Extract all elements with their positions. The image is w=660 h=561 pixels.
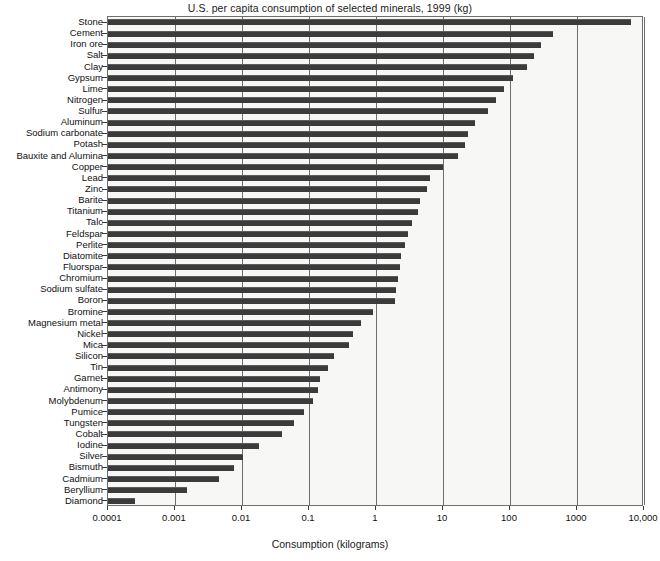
bar — [108, 298, 395, 304]
x-axis-tick-label: 1000 — [565, 512, 586, 523]
bar — [108, 253, 401, 259]
y-axis-label: Sulfur — [78, 106, 103, 116]
y-axis-label: Sodium carbonate — [26, 128, 103, 138]
y-axis-label: Titanium — [67, 206, 103, 216]
chart-title: U.S. per capita consumption of selected … — [0, 2, 660, 14]
y-axis-label: Iodine — [77, 440, 103, 450]
y-axis-label: Talc — [86, 217, 103, 227]
y-axis-label: Chromium — [59, 273, 103, 283]
y-axis-label: Garnet — [74, 373, 103, 383]
y-axis-label: Perlite — [76, 240, 103, 250]
x-axis-tick — [107, 506, 108, 510]
bar — [108, 398, 313, 404]
y-axis-label: Silicon — [75, 351, 103, 361]
bar — [108, 487, 187, 493]
bar — [108, 264, 400, 270]
x-axis-tick — [375, 506, 376, 510]
bar — [108, 443, 259, 449]
bar — [108, 231, 408, 237]
bar — [108, 153, 458, 159]
bar-series — [108, 17, 642, 505]
y-axis-label: Aluminum — [61, 117, 103, 127]
x-axis-tick — [509, 506, 510, 510]
y-axis-label: Bromine — [68, 307, 103, 317]
bar — [108, 476, 219, 482]
y-axis-label: Silver — [79, 451, 103, 461]
chart-page: U.S. per capita consumption of selected … — [0, 0, 660, 561]
plot-area — [107, 16, 643, 506]
bar — [108, 53, 534, 59]
bar — [108, 276, 398, 282]
bar — [108, 31, 553, 37]
x-axis-tick — [241, 506, 242, 510]
bar — [108, 376, 320, 382]
bar — [108, 309, 373, 315]
bar — [108, 19, 631, 25]
y-axis-label: Stone — [78, 17, 103, 27]
y-axis-label: Cement — [70, 28, 103, 38]
bar — [108, 387, 318, 393]
bar — [108, 120, 475, 126]
y-axis-label: Cobalt — [76, 429, 103, 439]
y-axis-label: Magnesium metal — [28, 318, 103, 328]
y-axis-label: Sodium sulfate — [40, 284, 103, 294]
y-axis-label: Iron ore — [70, 39, 103, 49]
x-axis-tick-label: 100 — [501, 512, 517, 523]
y-axis-label: Pumice — [71, 407, 103, 417]
bar — [108, 220, 412, 226]
y-axis-label: Lead — [82, 173, 103, 183]
bar — [108, 498, 135, 504]
bar — [108, 287, 396, 293]
bar — [108, 209, 418, 215]
y-axis-label: Mica — [83, 340, 103, 350]
y-axis-label: Salt — [87, 50, 103, 60]
x-axis-tick-label: 0.001 — [162, 512, 186, 523]
y-axis-label: Nitrogen — [67, 95, 103, 105]
bar — [108, 175, 430, 181]
bar — [108, 131, 468, 137]
y-axis-label: Antimony — [63, 384, 103, 394]
bar — [108, 465, 234, 471]
y-axis-label: Fluorspar — [63, 262, 103, 272]
x-axis-title: Consumption (kilograms) — [0, 538, 660, 550]
y-axis-label: Clay — [84, 62, 103, 72]
bar — [108, 242, 405, 248]
x-axis-tick-label: 10,000 — [628, 512, 657, 523]
x-axis-tick-label: 1 — [372, 512, 377, 523]
bar — [108, 42, 541, 48]
bar — [108, 409, 304, 415]
y-axis-label: Copper — [72, 162, 103, 172]
y-axis-label: Feldspar — [66, 229, 103, 239]
bar — [108, 331, 353, 337]
y-axis-label: Lime — [82, 84, 103, 94]
y-axis-label: Tungsten — [64, 418, 103, 428]
bar — [108, 420, 294, 426]
y-axis-label: Boron — [78, 295, 103, 305]
x-axis-tick — [576, 506, 577, 510]
y-axis-labels: StoneCementIron oreSaltClayGypsumLimeNit… — [0, 16, 103, 506]
y-axis-label: Gypsum — [68, 73, 103, 83]
bar — [108, 75, 513, 81]
y-axis-label: Potash — [73, 139, 103, 149]
bar — [108, 186, 427, 192]
bar — [108, 97, 496, 103]
bar — [108, 342, 349, 348]
bar — [108, 64, 527, 70]
x-axis-tick — [643, 506, 644, 510]
x-axis-labels: 0.00010.0010.010.1110100100010,000 — [0, 512, 660, 526]
x-axis-tick-label: 0.01 — [232, 512, 251, 523]
x-axis-tick-label: 0.1 — [301, 512, 314, 523]
y-axis-label: Bismuth — [69, 462, 103, 472]
y-axis-label: Barite — [78, 195, 103, 205]
bar — [108, 365, 328, 371]
bar — [108, 454, 243, 460]
bar — [108, 164, 443, 170]
bar — [108, 86, 504, 92]
x-axis-tick — [174, 506, 175, 510]
x-axis-tick — [442, 506, 443, 510]
y-axis-label: Beryllium — [64, 485, 103, 495]
x-axis-tick-label: 10 — [437, 512, 448, 523]
x-axis-tick — [308, 506, 309, 510]
y-axis-label: Diatomite — [63, 251, 103, 261]
bar — [108, 353, 334, 359]
